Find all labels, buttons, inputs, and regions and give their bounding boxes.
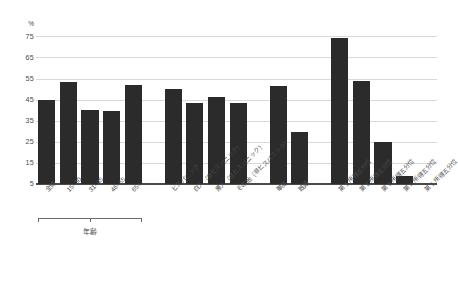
y-axis-tick-label: 25 xyxy=(4,138,34,145)
bar xyxy=(331,38,348,184)
plot-area xyxy=(36,30,437,184)
y-axis-tick-label: 65 xyxy=(4,54,34,61)
y-axis-tick-label: 15 xyxy=(4,159,34,166)
bar xyxy=(374,142,391,184)
bracket-cap-right xyxy=(141,218,142,222)
gridline xyxy=(36,100,437,101)
bar xyxy=(38,100,55,184)
bar xyxy=(60,82,77,184)
y-axis-tick-label: 75 xyxy=(4,33,34,40)
y-axis: 515253545556575 xyxy=(0,30,34,184)
bracket-cap-left xyxy=(38,218,39,222)
y-axis-tick-label: 5 xyxy=(4,180,34,187)
bar xyxy=(396,176,413,184)
bracket-center-tick xyxy=(90,218,91,222)
gridline xyxy=(36,57,437,58)
y-axis-tick-label: 55 xyxy=(4,75,34,82)
bar xyxy=(291,132,308,184)
bar xyxy=(186,103,203,184)
age-group-label: 年齢 xyxy=(38,228,142,236)
bar xyxy=(125,85,142,184)
y-axis-tick-label: 45 xyxy=(4,96,34,103)
gridline xyxy=(36,36,437,37)
bar xyxy=(165,89,182,184)
bar xyxy=(230,103,247,184)
gridline xyxy=(36,79,437,80)
bar xyxy=(270,86,287,184)
bar xyxy=(208,97,225,185)
bar xyxy=(353,81,370,184)
y-axis-unit-label: % xyxy=(0,20,34,27)
bar xyxy=(81,110,98,184)
bar xyxy=(103,111,120,184)
age-group-bracket xyxy=(38,218,142,228)
y-axis-tick-label: 35 xyxy=(4,117,34,124)
